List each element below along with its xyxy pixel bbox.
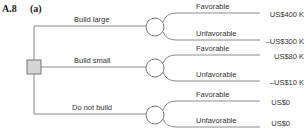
chance-node-none	[146, 106, 164, 124]
payoff-value: US$0	[271, 119, 290, 128]
payoff-value: US$80 K	[274, 52, 304, 61]
figure-part: (a)	[30, 3, 42, 14]
outcome-label: Unfavorable	[196, 116, 236, 125]
outcome-label: Unfavorable	[196, 70, 236, 79]
payoff-value: US$0	[271, 98, 290, 107]
branch-label-do-not-build: Do not build	[72, 103, 112, 112]
outcome-label: Unfavorable	[196, 29, 236, 38]
outcome-label: Favorable	[196, 44, 229, 53]
chance-node-small	[146, 59, 164, 77]
payoff-value: US$400 K	[270, 10, 304, 19]
decision-tree-lines	[0, 0, 306, 128]
branch-label-build-large: Build large	[74, 15, 109, 24]
outcome-label: Favorable	[196, 2, 229, 11]
decision-node	[27, 60, 41, 74]
figure-number: A.8	[2, 3, 17, 14]
chance-node-large	[146, 18, 164, 36]
payoff-value: –US$10 K	[270, 78, 304, 87]
payoff-value: –US$300 K	[266, 37, 304, 46]
outcome-label: Favorable	[196, 90, 229, 99]
branch-label-build-small: Build small	[74, 56, 110, 65]
